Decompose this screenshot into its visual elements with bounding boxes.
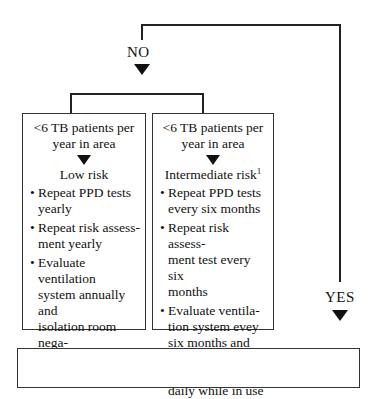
yes-branch-arrow-icon xyxy=(332,310,348,321)
bullet-line: ment test every six xyxy=(168,252,269,284)
bullet-line: Repeat risk assess- xyxy=(30,220,141,236)
intermediate-risk-box: <6 TB patients per year in area Intermed… xyxy=(152,113,274,330)
list-item: Repeat PPD tests every six months xyxy=(160,185,269,217)
bullet-line: Evaluate ventila- xyxy=(160,303,269,319)
intermediate-risk-text: Intermediate risk xyxy=(165,167,257,182)
bullet-line: Repeat PPD tests xyxy=(30,185,141,201)
intermediate-risk-label: Intermediate risk1 xyxy=(153,167,273,183)
no-branch-arrow-icon xyxy=(134,64,150,75)
low-risk-inline-arrow-icon xyxy=(77,155,91,165)
low-risk-box: <6 TB patients per year in area Low risk… xyxy=(22,113,146,330)
list-item: Repeat risk assess- ment yearly xyxy=(30,220,141,252)
bullet-line: system annually and xyxy=(38,287,141,319)
no-branch-stem xyxy=(141,24,143,40)
bullet-line: months xyxy=(168,284,269,300)
bottom-outcome-box xyxy=(17,348,360,388)
intermediate-risk-header-line1: <6 TB patients per xyxy=(159,120,267,136)
bullet-line: every six months xyxy=(168,201,269,217)
list-item: Repeat risk assess- ment test every six … xyxy=(160,220,269,300)
low-risk-header-line1: <6 TB patients per xyxy=(29,120,139,136)
bullet-line: isolation room nega- xyxy=(38,319,141,351)
bullet-line: Repeat PPD tests xyxy=(160,185,269,201)
intermediate-risk-header: <6 TB patients per year in area xyxy=(153,114,273,152)
yes-branch-label: YES xyxy=(325,290,355,305)
bullet-line: yearly xyxy=(38,201,141,217)
list-item: Repeat PPD tests yearly xyxy=(30,185,141,217)
low-risk-header: <6 TB patients per year in area xyxy=(23,114,145,152)
bullet-line: tion system evey xyxy=(168,319,269,335)
low-risk-header-line2: year in area xyxy=(29,136,139,152)
bullet-line: Evaluate ventilation xyxy=(30,255,141,287)
bullet-line: Repeat risk assess- xyxy=(160,220,269,252)
top-horizontal-connector xyxy=(141,24,341,26)
no-branch-label: NO xyxy=(127,45,150,60)
bullet-line: ment yearly xyxy=(38,236,141,252)
low-risk-label: Low risk xyxy=(23,167,145,183)
split-leg-right xyxy=(202,93,204,113)
yes-branch-stem xyxy=(339,24,341,282)
intermediate-risk-inline-arrow-icon xyxy=(206,155,220,165)
footnote-marker: 1 xyxy=(257,165,262,175)
split-horizontal-connector xyxy=(70,93,204,95)
split-leg-left xyxy=(70,93,72,113)
intermediate-risk-header-line2: year in area xyxy=(159,136,267,152)
